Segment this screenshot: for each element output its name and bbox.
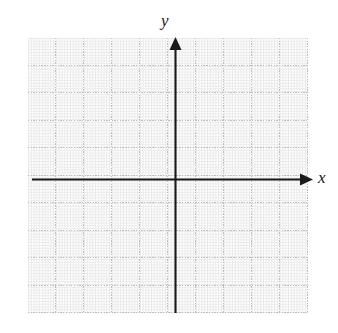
coordinate-plane-figure: y x (0, 0, 338, 333)
x-axis-label: x (318, 169, 326, 186)
y-axis-label: y (161, 12, 169, 29)
grid-plane (28, 38, 308, 313)
grid-major-horizontal-lines (28, 38, 308, 313)
